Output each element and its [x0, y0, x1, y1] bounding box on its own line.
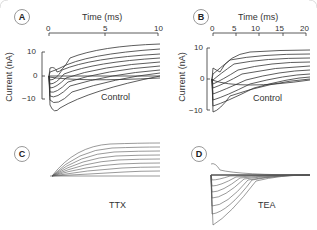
panel-c-traces	[50, 143, 160, 176]
panel-a-traces	[49, 44, 160, 111]
panel-b-traces	[212, 50, 310, 112]
traces-canvas	[0, 0, 317, 230]
panel-d-traces	[211, 164, 310, 225]
figure: A Time (ms) 0 5 10 10 0 −10 Current (nA)…	[0, 0, 317, 230]
